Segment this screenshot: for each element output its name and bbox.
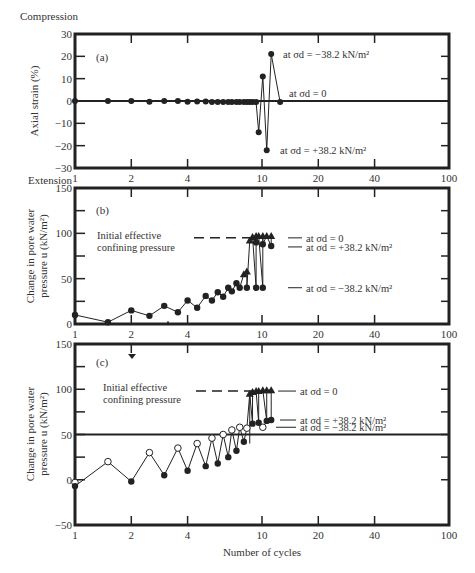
data-point-circle [237, 285, 243, 291]
y-tick-label: 150 [56, 338, 73, 350]
x-tick-label: 20 [313, 328, 325, 340]
data-point-filled-circle [249, 420, 255, 426]
x-tick-label: 40 [369, 529, 381, 541]
y-tick-label: 100 [56, 383, 73, 395]
y-tick-label: 100 [56, 227, 73, 239]
y-tick-label: −20 [55, 140, 73, 152]
data-point-circle [260, 241, 266, 247]
x-tick-label: 1 [72, 172, 78, 184]
data-point-circle [215, 289, 221, 295]
cyclic-swing-line [247, 236, 271, 288]
data-point-open-circle [209, 435, 216, 442]
x-tick-label: 20 [313, 529, 325, 541]
x-tick-label: 4 [185, 328, 191, 340]
data-point-circle [260, 285, 266, 291]
data-point-circle [220, 294, 226, 300]
y-tick-label: 50 [61, 273, 73, 285]
data-point-circle [253, 285, 259, 291]
data-point-filled-circle [72, 483, 78, 489]
data-point [105, 98, 111, 104]
x-tick-label: 100 [441, 529, 458, 541]
annotation: at σd = −38.2 kN/m² [300, 422, 386, 433]
initial-pressure-label-c-line2: confining pressure [103, 394, 181, 405]
x-tick-label: 1 [72, 529, 78, 541]
y-axis-label-b-line1: Change in pore water [24, 208, 36, 303]
data-point-filled-circle [203, 463, 209, 469]
x-tick-label: 20 [313, 172, 325, 184]
x-tick-label: 4 [185, 529, 191, 541]
data-point [185, 99, 191, 105]
x-tick-label: 2 [129, 529, 135, 541]
data-point-circle [105, 319, 111, 325]
data-point-filled-circle [233, 448, 239, 454]
y-axis-label-a: Axial strain (%) [28, 65, 41, 136]
initial-pressure-label-b-line1: Initial effective [97, 230, 162, 241]
data-point-open-circle [194, 440, 201, 447]
initial-pressure-label-b-line2: confining pressure [97, 242, 175, 253]
y-tick-label: 50 [61, 429, 73, 441]
data-point-circle [244, 285, 250, 291]
data-point-open-circle [229, 427, 236, 434]
x-tick-label: 40 [369, 328, 381, 340]
data-point-circle [203, 293, 209, 299]
data-point-circle [184, 297, 190, 303]
y-tick-label: 20 [61, 50, 73, 62]
data-point [268, 51, 274, 57]
annotation-zero: at σd = 0 [289, 88, 327, 99]
x-tick-label: 2 [129, 172, 135, 184]
annotation: at σd = −38.2 kN/m² [306, 283, 392, 294]
annotation-plus: at σd = +38.2 kN/m² [280, 145, 366, 156]
data-point-circle [253, 239, 259, 245]
data-point [146, 99, 152, 105]
data-point-filled-circle [241, 439, 247, 445]
panel-c: (c) Initial effective confining pressure… [24, 354, 181, 481]
x-tick-label: 100 [441, 172, 458, 184]
stray-dot [167, 321, 169, 323]
data-point-open-circle [146, 449, 153, 456]
annotation: at σd = 0 [300, 386, 338, 397]
axes-frame [75, 188, 449, 324]
data-point-filled-circle [255, 420, 261, 426]
data-point-circle [161, 303, 167, 309]
data-point-filled-circle [268, 417, 274, 423]
x-tick-label: 4 [185, 172, 191, 184]
data-point-circle [72, 312, 78, 318]
x-tick-label: 10 [257, 529, 269, 541]
data-point [72, 98, 78, 104]
x-tick-label: 100 [441, 328, 458, 340]
data-point [215, 99, 221, 105]
annotation: at σd = +38.2 kN/m² [306, 242, 392, 253]
data-point-filled-circle [128, 478, 134, 484]
data-point-circle [146, 313, 152, 319]
x-axis-label: Number of cycles [223, 546, 301, 558]
data-point [277, 99, 283, 105]
panel-label-c: (c) [96, 356, 109, 369]
data-point [175, 98, 181, 104]
x-tick-label: 10 [257, 172, 269, 184]
data-point-circle [209, 297, 215, 303]
data-point [253, 99, 259, 105]
data-point-filled-circle [184, 468, 190, 474]
compression-label: Compression [20, 10, 79, 22]
data-point-open-circle [236, 424, 243, 431]
data-point [128, 98, 134, 104]
data-point-circle [194, 304, 200, 310]
panel-2-marks: 124102040100050100150 [56, 182, 458, 340]
figure: Compression Extension Axial strain (%) (… [0, 0, 475, 573]
y-tick-label: 150 [56, 182, 73, 194]
panel-3-marks: 124102040100−50050100150 [55, 338, 458, 541]
panel-b: (b) Initial effective confining pressure… [24, 204, 175, 303]
y-axis-label-c-line1: Change in pore water [24, 386, 36, 481]
data-point [264, 147, 270, 153]
data-point [194, 98, 200, 104]
data-point-filled-circle [161, 472, 167, 478]
y-tick-label: 0 [67, 95, 73, 107]
panel-label-a: (a) [96, 51, 109, 64]
data-point [209, 99, 215, 105]
y-tick-label: 10 [61, 73, 73, 85]
data-point-circle [268, 243, 274, 249]
x-tick-label: 2 [129, 328, 135, 340]
x-tick-label: 10 [257, 328, 269, 340]
x-tick-label: 40 [369, 172, 381, 184]
data-point-filled-circle [225, 454, 231, 460]
